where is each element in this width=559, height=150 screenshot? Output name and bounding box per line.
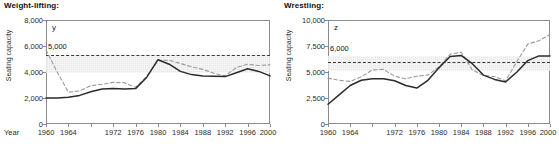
x-tick-label: 1972 [105,128,122,137]
x-tick-mark [372,124,373,127]
x-tick-mark [136,124,137,127]
x-tick-mark [113,124,114,127]
x-tick-mark [461,124,462,127]
x-tick-label: 1976 [127,128,144,137]
curves-left [46,20,270,124]
curve-observed-right [328,35,550,82]
x-tick-label: 1980 [150,128,167,137]
x-tick-mark [417,124,418,127]
x-tick-label: 1960 [38,128,55,137]
y-axis-title-left: Seating capacity [5,18,12,94]
chart-panel-weight-lifting: Weight-lifting: Seating capacity Year 8,… [0,0,279,150]
x-tick-mark [180,124,181,127]
y-tick-label: 2,000 [24,94,43,103]
x-tick-mark [203,124,204,127]
x-tick-mark [350,124,351,127]
curve-trend-left [46,60,270,98]
x-tick-label: 1980 [431,128,448,137]
x-tick-label: 1972 [386,128,403,137]
y-tick-label: 6,000 [24,42,43,51]
x-tick-mark [528,124,529,127]
x-tick-label: 2000 [260,128,277,137]
x-tick-mark [328,124,329,127]
x-tick-mark [270,124,271,127]
page-title-weight-lifting: Weight-lifting: [4,1,59,10]
x-tick-label: 1960 [320,128,337,137]
x-tick-label: 1976 [408,128,425,137]
x-tick-label: 1984 [453,128,470,137]
x-tick-mark [225,124,226,127]
x-tick-label: 1964 [342,128,359,137]
y-tick-label: 4,000 [24,68,43,77]
x-tick-label: 1988 [194,128,211,137]
chart-panel-wrestling: Wrestling: Seating capacity Year 10,000 … [280,0,559,150]
y-tick-label: 10,000 [302,16,325,25]
y-tick-label: 2,500 [306,94,325,103]
x-tick-label: 1964 [60,128,77,137]
plot-area-left: 8,000 6,000 4,000 2,000 0 5,000 y [46,20,270,124]
plot-area-right: 10,000 7,500 5,000 2,500 0 6,000 z 1960 … [328,20,550,124]
x-tick-mark [439,124,440,127]
y-tick-label: 7,500 [306,42,325,51]
x-tick-label: 2000 [540,128,557,137]
x-tick-mark [483,124,484,127]
x-tick-label: 1992 [497,128,514,137]
x-tick-label: 1992 [217,128,234,137]
y-tick-label: 5,000 [306,68,325,77]
x-tick-label: 1996 [519,128,536,137]
x-tick-label: 1996 [239,128,256,137]
figure-root: Weight-lifting: Seating capacity Year 8,… [0,0,559,150]
x-tick-mark [248,124,249,127]
x-tick-mark [506,124,507,127]
x-tick-mark [158,124,159,127]
x-tick-mark [550,124,551,127]
x-tick-mark [46,124,47,127]
x-tick-mark [68,124,69,127]
curves-right [328,20,550,124]
x-tick-mark [395,124,396,127]
curve-observed-left [46,50,270,92]
x-tick-label: 1984 [172,128,189,137]
x-tick-label: 1988 [475,128,492,137]
y-tick-label: 8,000 [24,16,43,25]
y-axis-title-right: Seating capacity [285,18,292,94]
x-axis-title-left: Year [4,128,19,137]
page-title-wrestling: Wrestling: [284,1,324,10]
curve-trend-right [328,55,550,104]
x-tick-mark [91,124,92,127]
